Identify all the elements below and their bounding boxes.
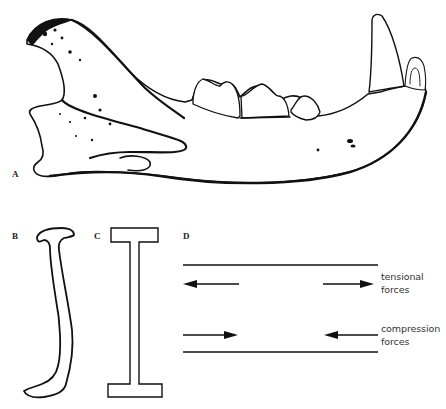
jaw-mechanics-figure: A B C D tensional forces compression for… bbox=[0, 0, 446, 409]
compression-arrow-right-icon bbox=[324, 331, 338, 339]
compression-line1: compression bbox=[381, 322, 440, 335]
tensional-line1: tensional bbox=[381, 270, 424, 283]
mandible-drawing bbox=[0, 0, 446, 409]
canine-tooth bbox=[369, 14, 404, 92]
beam-diagram bbox=[183, 265, 378, 352]
tension-arrow-left-icon bbox=[183, 280, 197, 288]
jaw-cross-section-outline bbox=[24, 228, 74, 397]
compression-forces-label: compression forces bbox=[381, 322, 440, 348]
panel-label-b: B bbox=[12, 231, 18, 241]
compression-line2: forces bbox=[381, 335, 440, 348]
incisor-teeth bbox=[405, 57, 426, 90]
panel-label-c: C bbox=[94, 231, 101, 241]
panel-label-a: A bbox=[12, 169, 19, 179]
tensional-forces-label: tensional forces bbox=[381, 270, 424, 296]
i-beam-outline bbox=[108, 228, 162, 397]
tension-arrow-right-icon bbox=[360, 280, 374, 288]
tensional-line2: forces bbox=[381, 283, 424, 296]
compression-arrow-left-icon bbox=[224, 331, 238, 339]
panel-label-d: D bbox=[183, 231, 190, 241]
